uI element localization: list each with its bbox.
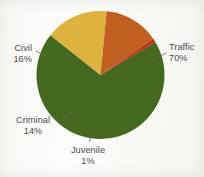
pie-chart-figure: Traffic 70% Civil 16% Criminal 14% Juven… <box>0 0 204 177</box>
slice-label-civil: Civil 16% <box>13 43 32 65</box>
slice-label-civil-name: Civil <box>14 43 32 53</box>
slice-label-traffic-pct: 70% <box>169 53 194 64</box>
slice-label-criminal-pct: 14% <box>4 126 62 137</box>
slice-label-civil-pct: 16% <box>13 54 32 65</box>
slice-label-juvenile: Juvenile 1% <box>56 145 120 167</box>
slice-label-juvenile-name: Juvenile <box>71 145 105 155</box>
slice-label-juvenile-pct: 1% <box>56 156 120 167</box>
slice-label-traffic: Traffic 70% <box>169 42 194 64</box>
slice-label-traffic-name: Traffic <box>169 42 194 52</box>
slice-label-criminal-name: Criminal <box>16 115 50 125</box>
slice-label-criminal: Criminal 14% <box>4 115 62 137</box>
